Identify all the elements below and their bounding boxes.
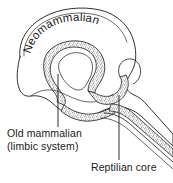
label-old-mammalian: Old mammalian (limbic system): [7, 127, 82, 153]
label-reptilian-core: Reptilian core: [91, 161, 157, 174]
brain-illustration: Neomammalian: [0, 0, 173, 183]
label-old-mammalian-line2: (limbic system): [7, 140, 82, 153]
label-old-mammalian-line1: Old mammalian: [7, 127, 82, 140]
label-reptilian-core-text: Reptilian core: [91, 161, 157, 174]
brain-diagram-figure: Neomammalian Old mammalian (limbic syste…: [0, 0, 173, 183]
